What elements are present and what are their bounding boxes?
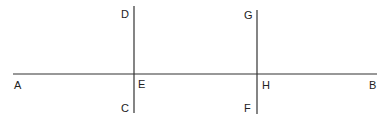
point-label-d: D	[121, 8, 129, 20]
labels-group: ABDCEGFH	[14, 8, 376, 114]
lines-group	[13, 6, 377, 114]
point-label-c: C	[121, 102, 129, 114]
point-label-e: E	[138, 78, 145, 90]
point-label-b: B	[369, 79, 376, 91]
point-label-g: G	[244, 9, 253, 21]
geometry-diagram: ABDCEGFH	[0, 0, 391, 124]
point-label-h: H	[262, 79, 270, 91]
point-label-a: A	[14, 79, 22, 91]
point-label-f: F	[244, 102, 251, 114]
